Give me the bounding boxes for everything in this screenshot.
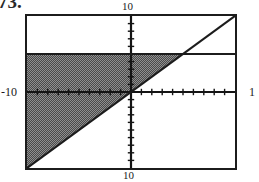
plot-canvas [27, 16, 235, 168]
axis-label-top: 10 [122, 1, 133, 12]
axis-label-right: 1 [249, 86, 255, 98]
axis-label-left: -10 [1, 86, 17, 98]
plot-frame [25, 14, 237, 170]
axis-label-bottom: 10 [123, 170, 134, 181]
figure-number: 73. [0, 0, 22, 13]
